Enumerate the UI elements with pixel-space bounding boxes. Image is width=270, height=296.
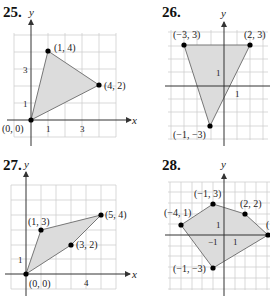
y-axis-label-27: y [23, 158, 29, 170]
y-tick-1-25: 1 [23, 99, 28, 109]
label-4-0: ( [266, 219, 270, 231]
problem-number-26: 26. [162, 4, 181, 20]
label-neg4-1: (−4, 1) [164, 207, 191, 219]
label-2-2: (2, 2) [240, 198, 262, 210]
point-4-2 [96, 82, 101, 87]
point-2-2 [242, 211, 247, 216]
x-tick-1-28: 1 [233, 237, 238, 247]
point-1-3 [38, 227, 43, 232]
x-tick-neg1-28: −1 [208, 237, 218, 247]
label-4-2: (4, 2) [104, 80, 126, 92]
point-0-0 [23, 271, 28, 276]
point-1-4 [45, 48, 50, 53]
label-0-0: (0, 0) [29, 278, 51, 290]
x-tick-1-26: 1 [235, 89, 240, 99]
point-neg1-3 [210, 201, 215, 206]
y-tick-3-25: 3 [23, 65, 28, 75]
y-axis-label-26: y [220, 7, 226, 19]
x-axis-label-25: x [131, 114, 137, 126]
point-neg1-neg3 [207, 123, 212, 128]
point-5-4 [98, 212, 103, 217]
y-tick-1-28: 1 [216, 220, 221, 230]
point-neg4-1 [178, 222, 183, 227]
label-neg1-neg3: (−1, −3) [173, 263, 206, 275]
problem-number-27: 27. [3, 157, 22, 173]
label-3-2: (3, 2) [76, 239, 98, 251]
x-tick-4-27: 4 [84, 278, 89, 288]
label-2-3: (2, 3) [244, 29, 266, 41]
label-0-0: (0, 0) [2, 123, 24, 135]
y-axis-label-25: y [28, 6, 34, 18]
problem-number-28: 28. [162, 157, 181, 173]
point-3-2 [68, 242, 73, 247]
problem-number-25: 25. [3, 4, 22, 20]
graph-27: 27. x y 4 1 (0, 0) (1, 3) (5, 4) (3, 2) [3, 157, 137, 296]
point-neg1-neg3 [210, 265, 215, 270]
x-tick-1-25: 1 [46, 124, 51, 134]
x-tick-3-25: 3 [80, 124, 85, 134]
label-5-4: (5, 4) [105, 209, 127, 221]
label-neg1-neg3: (−1, −3) [173, 129, 206, 141]
label-neg3-3: (−3, 3) [173, 29, 200, 41]
point-neg3-3 [181, 42, 186, 47]
graph-26: 26. y 1 1 (−3, 3) (2, 3) (−1, −3) [162, 4, 270, 146]
graph-25: 25. x y 1 3 1 3 (0, 0) (1, 4) (4, 2) [2, 4, 137, 146]
figure-canvas: 25. x y 1 3 1 3 (0, 0) (1, 4) (4, 2) 26. [0, 0, 270, 296]
point-2-3 [247, 42, 252, 47]
point-0-0 [28, 117, 33, 122]
y-axis-label-28: y [220, 158, 226, 170]
graph-28: 28. y −1 1 1 (−4, 1) (−1, 3) (2, 2) ( (−… [162, 157, 270, 296]
label-neg1-3: (−1, 3) [194, 188, 221, 200]
label-1-4: (1, 4) [54, 42, 76, 54]
x-axis-label-27: x [131, 268, 137, 280]
y-tick-1-26: 1 [216, 68, 221, 78]
y-tick-1-27: 1 [18, 255, 23, 265]
label-1-3: (1, 3) [28, 216, 50, 228]
